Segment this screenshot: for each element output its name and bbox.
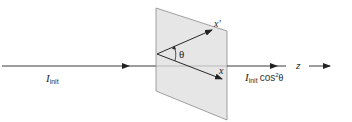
incident-intensity-label: Iinit (45, 72, 59, 85)
x-label: x (218, 65, 224, 76)
incident-beam (2, 63, 156, 69)
angle-label: θ (179, 48, 184, 60)
transmitted-intensity-label: Iinitcos2θ (244, 71, 284, 84)
polarizer-diagram: θ x′ x z Iinit Iinitcos2θ (0, 0, 352, 122)
beam-arrow-icon (122, 63, 130, 69)
x-prime-label: x′ (213, 18, 221, 29)
beam-arrow-icon (270, 63, 278, 69)
transmitted-beam (227, 63, 286, 69)
z-arrow-icon (323, 63, 331, 69)
z-axis-label: z (295, 61, 301, 71)
